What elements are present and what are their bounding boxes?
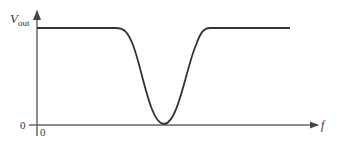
x-axis-label: f (321, 118, 326, 132)
notch-response-diagram: Vout 0 0 f (0, 0, 337, 144)
y-origin-label: 0 (20, 119, 26, 131)
response-curve (37, 28, 290, 124)
y-axis-label: Vout (10, 11, 30, 28)
x-origin-label: 0 (40, 126, 46, 138)
